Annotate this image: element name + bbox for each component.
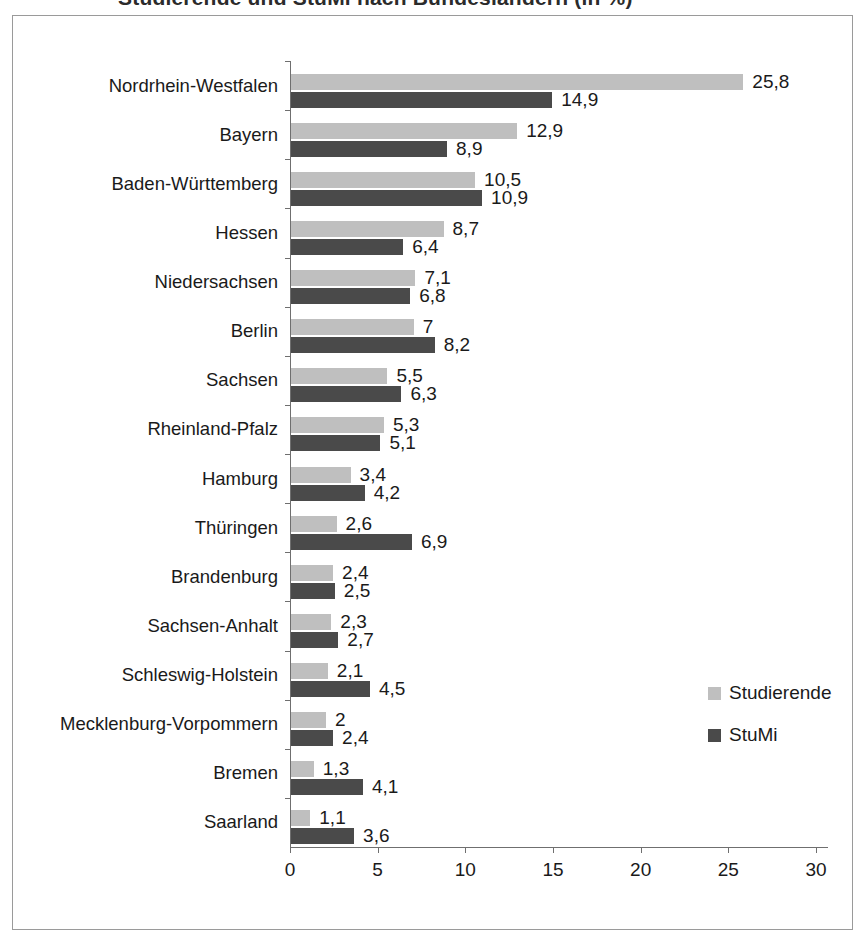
- bar-stumi: [291, 92, 552, 108]
- bar-value-label: 14,9: [561, 89, 598, 111]
- bar-studierende: [291, 467, 351, 483]
- x-axis-tick-label: 5: [372, 859, 383, 881]
- y-axis-tick: [285, 405, 290, 406]
- bar-stumi: [291, 288, 410, 304]
- bar-value-label: 2,4: [342, 727, 368, 749]
- legend-swatch-studierende: [708, 687, 721, 700]
- x-axis-tick: [378, 847, 379, 853]
- category-label: Bayern: [219, 124, 278, 146]
- cut-off-title-text: Studierende und StuMi nach Bundesländern…: [118, 0, 633, 10]
- x-axis-tick: [553, 847, 554, 853]
- bar-value-label: 6,9: [421, 531, 447, 553]
- bar-value-label: 10,9: [491, 187, 528, 209]
- legend-swatch-stumi: [708, 729, 721, 742]
- bar-stumi: [291, 583, 335, 599]
- x-axis-tick: [465, 847, 466, 853]
- bar-studierende: [291, 565, 333, 581]
- category-label: Baden-Württemberg: [111, 173, 278, 195]
- bar-studierende: [291, 761, 314, 777]
- bar-stumi: [291, 828, 354, 844]
- x-axis-tick-label: 15: [542, 859, 563, 881]
- category-label: Niedersachsen: [155, 271, 278, 293]
- x-axis-tick-label: 25: [718, 859, 739, 881]
- bar-studierende: [291, 663, 328, 679]
- bar-stumi: [291, 337, 435, 353]
- bar-value-label: 6,4: [412, 236, 438, 258]
- category-label: Rheinland-Pfalz: [147, 418, 278, 440]
- category-label: Sachsen: [206, 369, 278, 391]
- category-label: Hessen: [215, 222, 278, 244]
- bar-stumi: [291, 141, 447, 157]
- y-axis-tick: [285, 258, 290, 259]
- y-axis-tick: [285, 700, 290, 701]
- bar-stumi: [291, 386, 401, 402]
- bar-studierende: [291, 221, 444, 237]
- category-label: Brandenburg: [171, 566, 278, 588]
- bar-studierende: [291, 368, 387, 384]
- bar-studierende: [291, 123, 517, 139]
- bar-value-label: 6,8: [419, 285, 445, 307]
- category-label: Schleswig-Holstein: [122, 664, 278, 686]
- y-axis-tick: [285, 307, 290, 308]
- x-axis-tick: [290, 847, 291, 853]
- bar-value-label: 2,6: [346, 513, 372, 535]
- y-axis-tick: [285, 159, 290, 160]
- legend-item[interactable]: StuMi: [708, 724, 831, 746]
- category-label: Sachsen-Anhalt: [147, 615, 278, 637]
- bar-studierende: [291, 319, 414, 335]
- bar-value-label: 2,5: [344, 580, 370, 602]
- bar-value-label: 12,9: [526, 120, 563, 142]
- bar-stumi: [291, 485, 365, 501]
- bar-studierende: [291, 172, 475, 188]
- category-label: Mecklenburg-Vorpommern: [60, 713, 278, 735]
- bar-studierende: [291, 417, 384, 433]
- legend-label: Studierende: [729, 682, 831, 704]
- bar-stumi: [291, 534, 412, 550]
- x-axis-tick-label: 20: [630, 859, 651, 881]
- bar-studierende: [291, 810, 310, 826]
- y-axis-tick: [285, 61, 290, 62]
- y-axis-tick: [285, 552, 290, 553]
- y-axis-tick: [285, 601, 290, 602]
- bar-value-label: 8,9: [456, 138, 482, 160]
- bar-studierende: [291, 516, 337, 532]
- bar-value-label: 5,1: [389, 432, 415, 454]
- bar-studierende: [291, 614, 331, 630]
- category-label: Hamburg: [202, 468, 278, 490]
- category-label: Thüringen: [195, 517, 278, 539]
- y-axis-tick: [285, 454, 290, 455]
- bar-stumi: [291, 730, 333, 746]
- category-label: Berlin: [231, 320, 278, 342]
- chart-frame: 051015202530 Nordrhein-WestfalenBayernBa…: [12, 15, 853, 930]
- x-axis-tick-label: 0: [285, 859, 296, 881]
- bar-studierende: [291, 712, 326, 728]
- bar-value-label: 7: [423, 316, 434, 338]
- bar-value-label: 25,8: [752, 71, 789, 93]
- bar-stumi: [291, 779, 363, 795]
- category-label: Bremen: [213, 762, 278, 784]
- bar-value-label: 4,1: [372, 776, 398, 798]
- y-axis-tick: [285, 798, 290, 799]
- bar-stumi: [291, 632, 338, 648]
- chart-legend: StudierendeStuMi: [708, 682, 831, 766]
- x-axis-tick-label: 30: [805, 859, 826, 881]
- y-axis-tick: [285, 749, 290, 750]
- bar-value-label: 4,5: [379, 678, 405, 700]
- bar-studierende: [291, 270, 415, 286]
- legend-item[interactable]: Studierende: [708, 682, 831, 704]
- bar-value-label: 2,1: [337, 660, 363, 682]
- x-axis-tick: [728, 847, 729, 853]
- x-axis-tick: [641, 847, 642, 853]
- bar-studierende: [291, 74, 743, 90]
- legend-label: StuMi: [729, 724, 778, 746]
- bar-value-label: 6,3: [410, 383, 436, 405]
- bar-value-label: 8,7: [453, 218, 479, 240]
- bar-value-label: 1,3: [323, 758, 349, 780]
- bar-stumi: [291, 239, 403, 255]
- bar-stumi: [291, 681, 370, 697]
- bar-value-label: 3,6: [363, 825, 389, 847]
- category-label: Saarland: [204, 811, 278, 833]
- y-axis-tick: [285, 503, 290, 504]
- bar-stumi: [291, 435, 380, 451]
- bar-value-label: 4,2: [374, 482, 400, 504]
